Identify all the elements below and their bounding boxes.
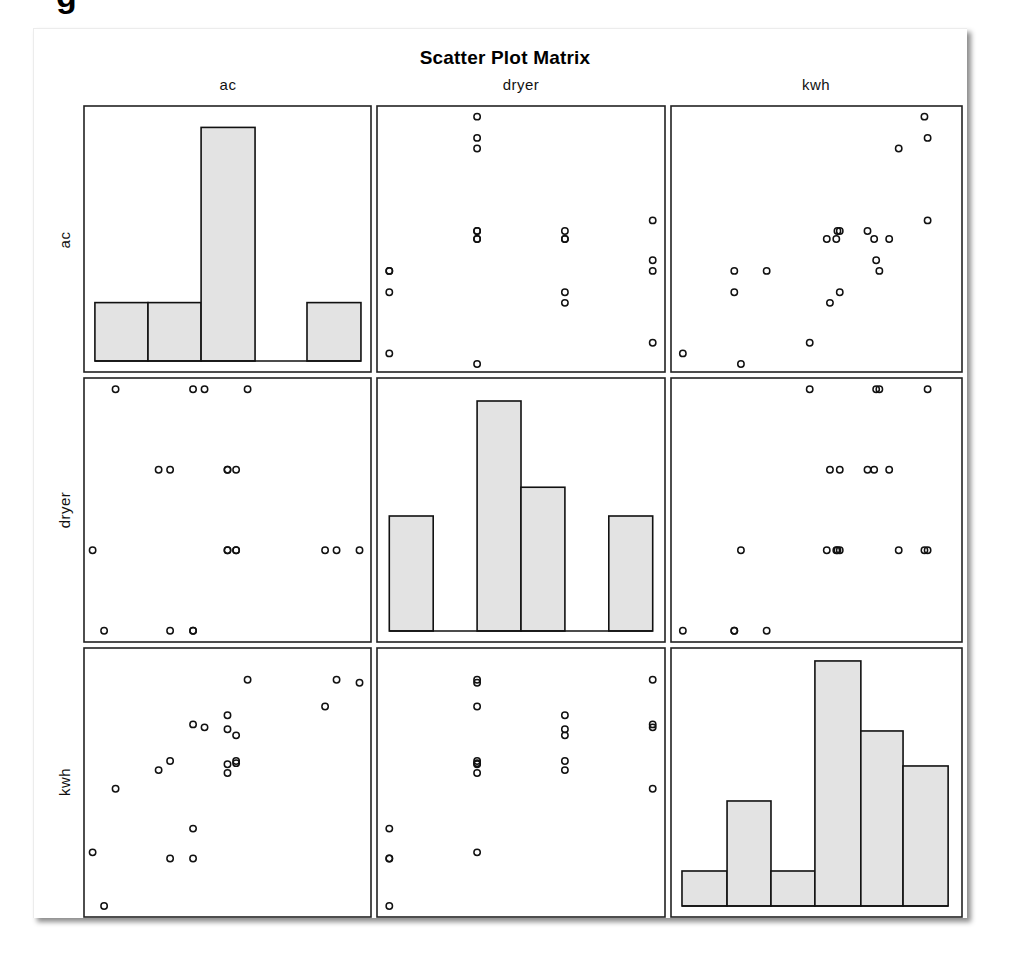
histogram-bar	[609, 516, 653, 631]
panel-border	[377, 106, 665, 372]
data-point	[864, 228, 870, 234]
data-point	[356, 680, 362, 686]
data-point	[763, 268, 769, 274]
histogram-bar	[727, 801, 771, 906]
data-point	[356, 547, 362, 553]
histogram-bar	[861, 731, 903, 906]
data-point	[650, 677, 656, 683]
data-point	[562, 236, 568, 242]
data-point	[731, 628, 737, 634]
data-point	[562, 767, 568, 773]
histogram-bar	[682, 871, 727, 906]
data-point	[474, 145, 480, 151]
data-point	[322, 547, 328, 553]
data-point	[201, 724, 207, 730]
panel-border	[84, 648, 371, 917]
data-point	[474, 703, 480, 709]
data-point	[224, 726, 230, 732]
data-point	[562, 712, 568, 718]
data-point	[386, 268, 392, 274]
data-point	[833, 236, 839, 242]
data-point	[224, 467, 230, 473]
histogram-bar	[201, 127, 255, 361]
data-point	[807, 386, 813, 392]
data-point	[474, 361, 480, 367]
panel-ac-vs-dryer	[377, 106, 665, 372]
data-point	[386, 825, 392, 831]
data-point	[871, 467, 877, 473]
data-point	[101, 903, 107, 909]
panel-kwh-vs-kwh	[671, 648, 962, 917]
panel-border	[671, 106, 962, 372]
histogram-bar	[815, 661, 861, 906]
data-point	[886, 467, 892, 473]
data-point	[155, 467, 161, 473]
data-point	[680, 628, 686, 634]
data-point	[386, 350, 392, 356]
data-point	[474, 113, 480, 119]
data-point	[322, 703, 328, 709]
data-point	[89, 547, 95, 553]
data-point	[650, 268, 656, 274]
data-point	[190, 855, 196, 861]
data-point	[112, 386, 118, 392]
histogram-bar	[389, 516, 433, 631]
data-point	[562, 289, 568, 295]
panel-border	[84, 378, 371, 642]
data-point	[224, 761, 230, 767]
data-point	[474, 236, 480, 242]
data-point	[680, 350, 686, 356]
data-point	[224, 712, 230, 718]
data-point	[244, 386, 250, 392]
data-point	[650, 217, 656, 223]
data-point	[924, 217, 930, 223]
data-point	[474, 849, 480, 855]
data-point	[837, 467, 843, 473]
data-point	[873, 257, 879, 263]
data-point	[474, 228, 480, 234]
data-point	[386, 903, 392, 909]
data-point	[896, 547, 902, 553]
data-point	[233, 547, 239, 553]
histogram-bar	[521, 487, 565, 631]
histogram-bar	[771, 871, 815, 906]
panel-kwh-vs-ac	[84, 648, 371, 917]
data-point	[921, 113, 927, 119]
histogram-bar	[95, 303, 148, 361]
panel-kwh-vs-dryer	[377, 648, 665, 917]
data-point	[824, 236, 830, 242]
data-point	[562, 300, 568, 306]
data-point	[386, 855, 392, 861]
data-point	[167, 467, 173, 473]
data-point	[155, 767, 161, 773]
data-point	[886, 236, 892, 242]
data-point	[807, 340, 813, 346]
data-point	[924, 135, 930, 141]
data-point	[650, 257, 656, 263]
data-point	[224, 547, 230, 553]
data-point	[924, 386, 930, 392]
panel-ac-vs-kwh	[671, 106, 962, 372]
data-point	[876, 268, 882, 274]
data-point	[190, 628, 196, 634]
data-point	[167, 855, 173, 861]
data-point	[731, 268, 737, 274]
data-point	[333, 547, 339, 553]
data-point	[112, 786, 118, 792]
data-point	[763, 628, 769, 634]
data-point	[233, 467, 239, 473]
data-point	[827, 300, 833, 306]
histogram-bar	[307, 303, 361, 361]
data-point	[474, 135, 480, 141]
data-point	[474, 770, 480, 776]
data-point	[562, 758, 568, 764]
histogram-bar	[903, 766, 948, 906]
data-point	[201, 386, 207, 392]
data-point	[837, 289, 843, 295]
panel-dryer-vs-dryer	[377, 378, 665, 642]
data-point	[233, 732, 239, 738]
data-point	[101, 628, 107, 634]
panel-dryer-vs-ac	[84, 378, 371, 642]
data-point	[738, 547, 744, 553]
data-point	[89, 849, 95, 855]
